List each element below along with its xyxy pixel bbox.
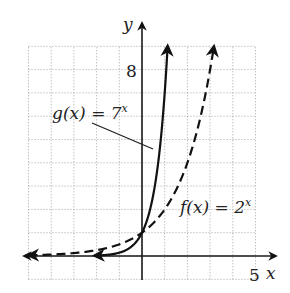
f-function-label: f(x) = 2x xyxy=(178,196,252,217)
y-tick-8: 8 xyxy=(126,61,137,81)
x-axis-label: x xyxy=(266,263,276,283)
f-curve-dashed xyxy=(29,46,214,255)
x-tick-5: 5 xyxy=(249,265,260,285)
y-axis-label: y xyxy=(122,14,133,34)
g-label-leader-line xyxy=(92,123,153,149)
g-function-label: g(x) = 7x xyxy=(52,102,129,123)
exponential-graph: y x 8 5 g(x) = 7x f(x) = 2x xyxy=(0,0,290,293)
